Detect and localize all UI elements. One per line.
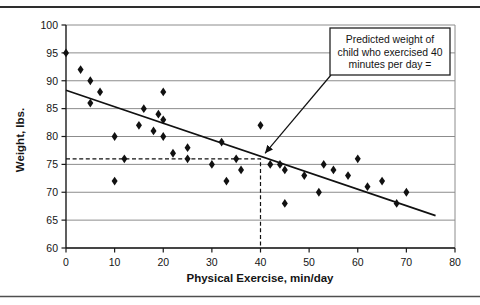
data-point	[364, 182, 370, 191]
data-point	[355, 154, 361, 163]
x-tick-label: 50	[303, 256, 315, 268]
y-tick-label: 100	[40, 19, 58, 31]
x-tick-label: 40	[255, 256, 267, 268]
x-tick-label: 70	[401, 256, 413, 268]
x-tick-label: 10	[109, 256, 121, 268]
data-point	[170, 149, 176, 158]
data-point	[394, 199, 400, 208]
data-point	[112, 177, 118, 186]
annotation-line-1: Predicted weight of	[346, 34, 434, 45]
x-axis-title: Physical Exercise, min/day	[186, 272, 334, 284]
data-point	[321, 160, 327, 169]
data-point	[345, 171, 351, 180]
data-point	[330, 166, 336, 175]
scatter-chart: 6065707580859095100 01020304050607080 Ph…	[0, 0, 480, 305]
data-point	[155, 110, 161, 119]
y-tick-label: 65	[46, 214, 58, 226]
data-point	[379, 177, 385, 186]
data-point	[185, 154, 191, 163]
prediction-guide-dashed-lines	[66, 159, 261, 248]
y-tick-label: 75	[46, 158, 58, 170]
data-point	[136, 121, 142, 130]
y-tick-labels: 6065707580859095100	[40, 19, 66, 254]
data-point	[160, 132, 166, 141]
data-point	[267, 160, 273, 169]
x-tick-label: 0	[63, 256, 69, 268]
y-tick-label: 85	[46, 102, 58, 114]
data-point	[160, 88, 166, 97]
data-point	[403, 188, 409, 197]
data-point	[151, 127, 157, 136]
y-tick-label: 80	[46, 130, 58, 142]
data-point	[316, 188, 322, 197]
x-tick-label: 30	[206, 256, 218, 268]
data-point	[121, 154, 127, 163]
x-tick-labels: 01020304050607080	[63, 248, 461, 268]
data-point	[97, 88, 103, 97]
x-tick-label: 80	[449, 256, 461, 268]
y-tick-label: 90	[46, 75, 58, 87]
data-point	[112, 132, 118, 141]
data-point	[209, 160, 215, 169]
data-point	[282, 166, 288, 175]
data-point	[219, 138, 225, 147]
data-point	[87, 76, 93, 85]
data-point	[238, 166, 244, 175]
annotation-leader-line	[265, 75, 331, 153]
page: 6065707580859095100 01020304050607080 Ph…	[0, 0, 480, 305]
data-point	[223, 177, 229, 186]
data-point	[141, 104, 147, 113]
y-tick-label: 60	[46, 242, 58, 254]
y-tick-label: 95	[46, 47, 58, 59]
annotation-callout: Predicted weight of child who exercised …	[265, 28, 450, 153]
annotation-line-2: child who exercised 40	[337, 47, 442, 58]
x-tick-label: 20	[157, 256, 169, 268]
data-point	[233, 154, 239, 163]
y-tick-label: 70	[46, 186, 58, 198]
data-point	[185, 143, 191, 152]
annotation-line-3: minutes per day =	[349, 59, 432, 70]
data-point	[78, 65, 84, 74]
y-axis-title: Weight, lbs.	[14, 108, 26, 172]
data-point	[258, 121, 264, 130]
data-point	[63, 48, 69, 57]
data-point	[282, 199, 288, 208]
x-tick-label: 60	[352, 256, 364, 268]
